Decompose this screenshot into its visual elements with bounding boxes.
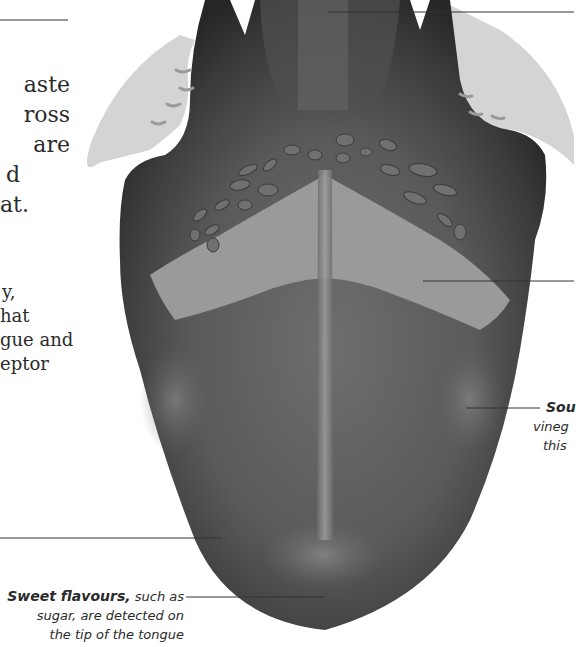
intro-paragraph: aste ross are d at. <box>0 70 70 220</box>
sour-line-3: this <box>543 436 576 455</box>
median-groove <box>317 170 333 540</box>
intro-line-4: d <box>0 160 70 190</box>
second-line-3: gue and <box>0 328 73 352</box>
intro-line-5: at. <box>0 190 70 220</box>
sour-term: Sou <box>546 399 576 415</box>
second-line-4: eptor <box>0 352 73 376</box>
sweet-line-3: the tip of the tongue <box>0 625 184 644</box>
throat-center <box>298 0 348 110</box>
sour-line-2: vineg <box>533 417 576 436</box>
intro-line-1: aste <box>0 70 70 100</box>
sweet-line-2: sugar, are detected on <box>0 606 184 625</box>
left-sour-zone <box>140 345 210 455</box>
intro-line-2: ross <box>0 100 70 130</box>
second-line-1: y, <box>0 280 73 304</box>
second-paragraph: y, hat gue and eptor <box>0 280 73 376</box>
sweet-label: Sweet flavours, such as sugar, are detec… <box>0 587 184 644</box>
right-sour-zone <box>435 345 505 455</box>
second-line-2: hat <box>0 304 73 328</box>
sweet-line-1-rest: such as <box>131 589 184 604</box>
intro-line-3: are <box>0 130 70 160</box>
sour-label: Sou vineg this <box>546 398 576 455</box>
sweet-term: Sweet flavours, <box>7 588 130 604</box>
